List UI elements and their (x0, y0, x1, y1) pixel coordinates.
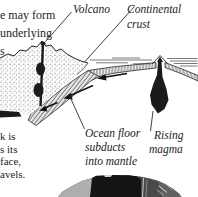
body-text-line: e may form (0, 9, 55, 22)
ocean-floor-leader-line (69, 95, 85, 130)
ocean-floor-band (88, 63, 156, 81)
continental-crust-label: Continental crust (127, 3, 181, 33)
ocean-floor-band-right (165, 63, 198, 82)
subduction-figure-panel: e may form underlying s k is s its face,… (0, 0, 198, 197)
body-text-line: s its (0, 144, 17, 156)
body-text-line: avels. (0, 169, 25, 181)
magma-chamber-upper (36, 63, 45, 76)
body-text-line: underlying (0, 27, 52, 40)
rising-magma-label-line2: magma (149, 143, 183, 155)
label-line: into mantle (85, 155, 140, 169)
label-line: crust (127, 18, 181, 33)
magma-chamber-lower (34, 83, 44, 97)
label-line: Ocean floor (85, 127, 140, 141)
rising-magma-plume (150, 62, 169, 114)
rising-magma-label-line1: Rising (154, 129, 183, 141)
label-line: Continental (127, 3, 181, 18)
body-text-line: face, (0, 156, 21, 168)
rock-outcrop-photo (58, 175, 182, 197)
body-text-line: k is (0, 131, 16, 143)
ocean-floor-label: Ocean floor subducts into mantle (85, 127, 140, 169)
label-line: subducts (85, 141, 140, 155)
rising-magma-leader-line (151, 111, 154, 131)
body-text-line: s (0, 45, 5, 58)
continental-crust-illustration (0, 41, 88, 114)
volcano-label: Volcano (73, 3, 110, 15)
crater (41, 42, 46, 46)
